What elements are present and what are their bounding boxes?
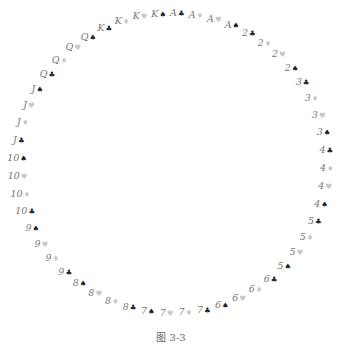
card-rank: 9 bbox=[25, 222, 31, 233]
spade-icon: ♠ bbox=[233, 21, 240, 30]
card-label: 5♥ bbox=[290, 248, 304, 258]
card-label: 4♥ bbox=[318, 182, 332, 192]
card-label: K♣ bbox=[97, 23, 112, 33]
heart-icon: ♥ bbox=[239, 294, 246, 303]
card-label: 6♥ bbox=[232, 293, 246, 303]
card-label: 4♠ bbox=[314, 199, 328, 209]
card-label: K♠ bbox=[151, 9, 166, 19]
card-rank: 8 bbox=[73, 278, 79, 289]
card-label: J♣ bbox=[13, 135, 25, 145]
card-rank: 2 bbox=[272, 49, 278, 60]
card-rank: 5 bbox=[277, 261, 283, 272]
card-rank: 2 bbox=[285, 62, 291, 73]
card-label: 8♥ bbox=[88, 289, 102, 299]
club-icon: ♣ bbox=[49, 70, 56, 79]
card-circle-diagram: A♣A♦A♥A♠2♣2♦2♥2♠3♣3♦3♥3♠4♣4♦4♥4♠5♣5♦5♥5♠… bbox=[0, 0, 342, 350]
card-label: A♣ bbox=[170, 8, 185, 18]
card-rank: 6 bbox=[264, 273, 270, 284]
card-label: J♥ bbox=[23, 100, 35, 110]
card-rank: 5 bbox=[290, 247, 296, 258]
card-label: 2♥ bbox=[272, 50, 286, 60]
spade-icon: ♠ bbox=[324, 128, 331, 137]
figure-caption: 图 3-3 bbox=[0, 329, 342, 344]
card-label: 9♦ bbox=[46, 254, 60, 264]
card-rank: 8 bbox=[123, 302, 129, 313]
heart-icon: ♥ bbox=[74, 44, 81, 53]
card-label: 2♣ bbox=[242, 28, 256, 38]
spade-icon: ♠ bbox=[321, 200, 328, 209]
card-label: 5♠ bbox=[277, 262, 291, 272]
diamond-icon: ♦ bbox=[112, 298, 119, 307]
diamond-icon: ♦ bbox=[197, 11, 204, 20]
card-label: 3♠ bbox=[317, 127, 331, 137]
card-label: 10♥ bbox=[8, 171, 28, 181]
card-label: 10♦ bbox=[10, 189, 30, 199]
card-rank: A bbox=[189, 9, 196, 20]
card-label: 7♦ bbox=[178, 308, 192, 318]
card-rank: 3 bbox=[305, 92, 311, 103]
card-rank: J bbox=[17, 116, 21, 127]
card-label: K♦ bbox=[115, 16, 130, 26]
diamond-icon: ♦ bbox=[23, 190, 30, 199]
heart-icon: ♥ bbox=[215, 15, 222, 24]
card-rank: 4 bbox=[320, 144, 326, 155]
card-label: 10♣ bbox=[15, 207, 35, 217]
spade-icon: ♠ bbox=[222, 301, 229, 310]
card-rank: 9 bbox=[35, 238, 41, 249]
card-label: Q♥ bbox=[66, 43, 82, 53]
diamond-icon: ♦ bbox=[307, 234, 314, 243]
card-label: 8♣ bbox=[123, 303, 137, 313]
card-rank: 4 bbox=[318, 181, 324, 192]
card-label: K♥ bbox=[133, 11, 148, 21]
diamond-icon: ♦ bbox=[123, 17, 130, 26]
card-rank: Q bbox=[40, 68, 48, 79]
card-label: 3♦ bbox=[305, 93, 319, 103]
card-rank: A bbox=[207, 13, 214, 24]
card-label: 6♦ bbox=[249, 285, 263, 295]
heart-icon: ♥ bbox=[42, 240, 49, 249]
card-label: Q♣ bbox=[40, 69, 56, 79]
card-rank: A bbox=[225, 19, 232, 30]
card-rank: 10 bbox=[7, 152, 19, 163]
card-rank: 7 bbox=[160, 307, 166, 318]
heart-icon: ♥ bbox=[141, 12, 148, 21]
card-label: Q♠ bbox=[81, 32, 97, 42]
card-rank: 2 bbox=[258, 37, 264, 48]
card-rank: 7 bbox=[178, 307, 184, 318]
card-label: 6♠ bbox=[215, 300, 229, 310]
card-rank: K bbox=[115, 15, 122, 26]
card-rank: 8 bbox=[88, 288, 94, 299]
spade-icon: ♠ bbox=[80, 280, 87, 289]
card-label: 9♥ bbox=[35, 239, 49, 249]
card-label: 5♦ bbox=[300, 233, 314, 243]
spade-icon: ♠ bbox=[148, 307, 155, 316]
diamond-icon: ♦ bbox=[256, 286, 263, 295]
card-label: A♦ bbox=[189, 10, 204, 20]
card-label: 4♦ bbox=[320, 163, 334, 173]
heart-icon: ♥ bbox=[95, 290, 102, 299]
card-label: 8♠ bbox=[73, 279, 87, 289]
club-icon: ♣ bbox=[178, 9, 185, 18]
card-label: A♥ bbox=[207, 14, 222, 24]
diamond-icon: ♦ bbox=[61, 56, 68, 65]
club-icon: ♣ bbox=[65, 268, 72, 277]
card-rank: 4 bbox=[314, 198, 320, 209]
card-rank: Q bbox=[66, 42, 74, 53]
card-rank: 10 bbox=[15, 206, 27, 217]
card-rank: K bbox=[97, 22, 104, 33]
card-label: 7♥ bbox=[160, 308, 174, 318]
card-rank: 8 bbox=[105, 296, 111, 307]
card-label: J♠ bbox=[32, 84, 44, 94]
card-rank: 6 bbox=[249, 284, 255, 295]
club-icon: ♣ bbox=[28, 208, 35, 217]
spade-icon: ♠ bbox=[20, 154, 27, 163]
card-rank: 7 bbox=[141, 305, 147, 316]
spade-icon: ♠ bbox=[292, 64, 299, 73]
card-label: 9♠ bbox=[25, 223, 39, 233]
diamond-icon: ♦ bbox=[185, 309, 192, 318]
card-label: 2♦ bbox=[258, 38, 272, 48]
card-rank: A bbox=[170, 7, 177, 18]
club-icon: ♣ bbox=[303, 78, 310, 87]
card-rank: 3 bbox=[296, 76, 302, 87]
club-icon: ♣ bbox=[204, 306, 211, 315]
